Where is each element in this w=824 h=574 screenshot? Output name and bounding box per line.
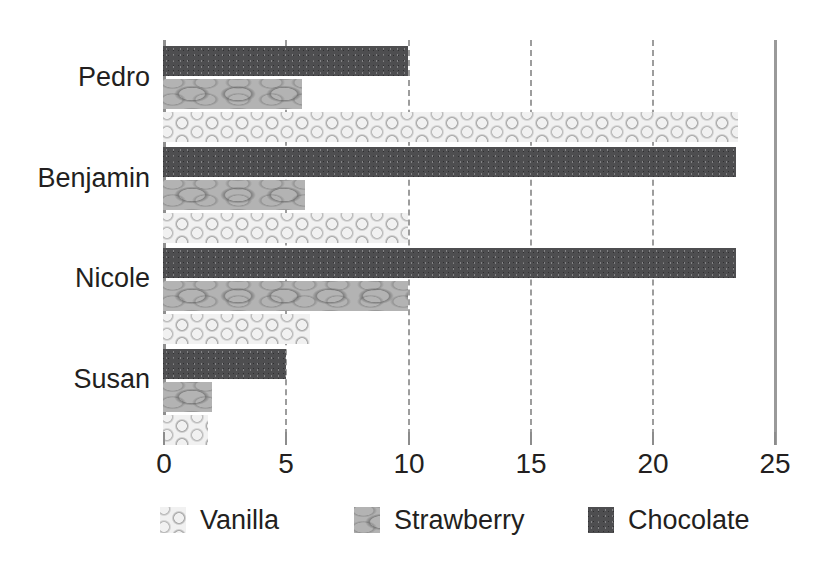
- category-label-benjamin: Benjamin: [0, 163, 150, 194]
- plot-area: [163, 40, 775, 445]
- bar-susan-chocolate[interactable]: [163, 349, 286, 379]
- bar-susan-vanilla[interactable]: [163, 415, 208, 445]
- legend-item-vanilla[interactable]: Vanilla: [160, 498, 279, 542]
- bar-pedro-chocolate[interactable]: [163, 46, 408, 76]
- bar-group-nicole: [163, 248, 775, 346]
- vanilla-swatch-icon: [160, 507, 186, 533]
- legend-item-chocolate[interactable]: Chocolate: [588, 498, 750, 542]
- bar-nicole-chocolate[interactable]: [163, 248, 736, 278]
- legend-item-strawberry[interactable]: Strawberry: [354, 498, 525, 542]
- chocolate-swatch-icon: [588, 507, 614, 533]
- bar-group-benjamin: [163, 147, 775, 245]
- xtick-label-0: 0: [134, 448, 194, 480]
- bar-pedro-strawberry[interactable]: [163, 79, 302, 109]
- bar-benjamin-strawberry[interactable]: [163, 180, 305, 210]
- category-label-susan: Susan: [0, 364, 150, 395]
- category-label-pedro: Pedro: [0, 62, 150, 93]
- xtick-mark-5: [285, 432, 287, 445]
- strawberry-swatch-icon: [354, 507, 380, 533]
- chart-legend: Vanilla Strawberry Chocolate: [0, 498, 824, 548]
- category-label-nicole: Nicole: [0, 263, 150, 294]
- xtick-label-10: 10: [379, 448, 439, 480]
- xtick-mark-15: [530, 432, 532, 445]
- bar-benjamin-chocolate[interactable]: [163, 147, 736, 177]
- xtick-label-20: 20: [623, 448, 683, 480]
- xtick-label-5: 5: [256, 448, 316, 480]
- bar-nicole-strawberry[interactable]: [163, 281, 408, 311]
- bar-group-susan: [163, 349, 775, 447]
- xtick-mark-20: [652, 432, 654, 445]
- xtick-mark-0: [163, 432, 165, 445]
- bar-group-pedro: [163, 46, 775, 144]
- legend-label-vanilla: Vanilla: [200, 505, 279, 536]
- bar-chart: Pedro Benjamin Nicole Susan 0 5 10 15 20…: [0, 0, 824, 574]
- bar-pedro-vanilla[interactable]: [163, 112, 738, 142]
- xtick-mark-10: [408, 432, 410, 445]
- bar-susan-strawberry[interactable]: [163, 382, 212, 412]
- legend-label-chocolate: Chocolate: [628, 505, 750, 536]
- legend-label-strawberry: Strawberry: [394, 505, 525, 536]
- xtick-label-15: 15: [501, 448, 561, 480]
- bar-nicole-vanilla[interactable]: [163, 314, 310, 344]
- xtick-mark-25: [774, 432, 776, 445]
- xtick-label-25: 25: [745, 448, 805, 480]
- bar-benjamin-vanilla[interactable]: [163, 213, 408, 243]
